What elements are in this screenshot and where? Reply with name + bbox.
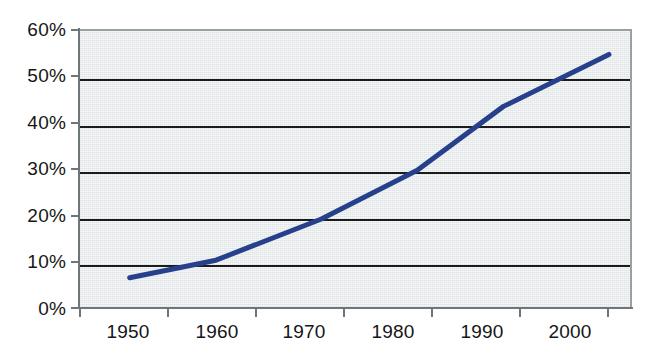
- y-axis-label-30: 30%: [4, 159, 66, 178]
- gridline-40: [79, 126, 630, 128]
- x-axis-label-1960: 1960: [177, 322, 257, 341]
- x-tick-6: [607, 309, 609, 317]
- x-axis-label-1970: 1970: [264, 322, 344, 341]
- y-tick-10: [71, 261, 79, 263]
- gridline-20: [79, 219, 630, 221]
- y-axis-label-40: 40%: [4, 113, 66, 132]
- y-tick-30: [71, 168, 79, 170]
- x-axis-label-1950: 1950: [88, 322, 168, 341]
- y-tick-20: [71, 215, 79, 217]
- x-tick-3: [343, 309, 345, 317]
- y-axis-label-10: 10%: [4, 252, 66, 271]
- y-axis-label-0: 0%: [4, 299, 66, 318]
- y-axis-label-20: 20%: [4, 206, 66, 225]
- x-tick-5: [519, 309, 521, 317]
- gridline-10: [79, 265, 630, 267]
- line-chart: 60% 50% 40% 30% 20% 10% 0% 1950 1960 197…: [0, 0, 658, 364]
- x-tick-1: [167, 309, 169, 317]
- x-tick-4: [431, 309, 433, 317]
- x-tick-2: [255, 309, 257, 317]
- x-axis-label-2000: 2000: [530, 322, 610, 341]
- y-tick-0: [71, 307, 79, 309]
- x-tick-0: [79, 309, 81, 317]
- y-axis-label-50: 50%: [4, 66, 66, 85]
- gridline-50: [79, 79, 630, 81]
- x-axis-label-1980: 1980: [353, 322, 433, 341]
- y-tick-40: [71, 122, 79, 124]
- x-axis-line: [79, 307, 633, 309]
- y-axis-labels: 60% 50% 40% 30% 20% 10% 0%: [0, 0, 66, 364]
- y-tick-60: [71, 29, 79, 31]
- gridline-30: [79, 172, 630, 174]
- y-tick-50: [71, 75, 79, 77]
- x-axis-label-1990: 1990: [442, 322, 522, 341]
- plot-area: [79, 29, 632, 308]
- y-axis-label-60: 60%: [4, 20, 66, 39]
